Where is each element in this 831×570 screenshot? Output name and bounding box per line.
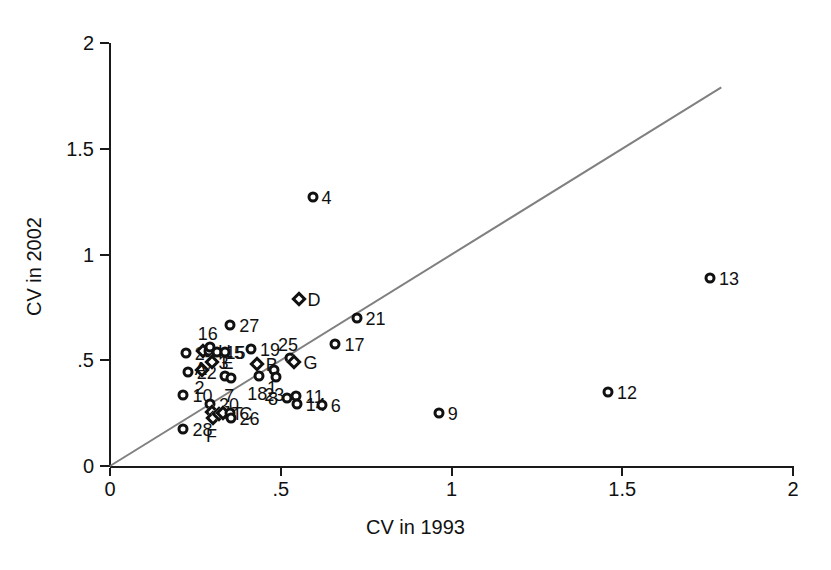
circle-marker-icon (433, 408, 444, 419)
circle-marker-icon (271, 372, 282, 383)
data-point[interactable] (182, 366, 193, 377)
data-point-label: 16 (198, 325, 218, 343)
circle-marker-icon (705, 273, 716, 284)
circle-marker-icon (602, 387, 613, 398)
circle-marker-icon (225, 413, 236, 424)
data-point[interactable] (291, 399, 302, 410)
data-point-label: 8 (268, 390, 278, 408)
data-point[interactable] (225, 413, 236, 424)
circle-marker-icon (180, 347, 191, 358)
data-point[interactable] (293, 293, 304, 304)
data-point-label: 4 (322, 189, 332, 207)
plot-area: 281024222AH1620EJF15IT5327C26719B1812381… (0, 0, 831, 570)
data-point[interactable] (289, 357, 300, 368)
data-point-label: 21 (366, 310, 386, 328)
data-point[interactable] (225, 320, 236, 331)
data-point[interactable] (180, 347, 191, 358)
data-point[interactable] (178, 390, 189, 401)
data-point-label: G (303, 354, 317, 372)
data-point[interactable] (705, 273, 716, 284)
circle-marker-icon (178, 423, 189, 434)
data-point-label: 27 (239, 317, 259, 335)
diamond-marker-icon (287, 355, 303, 371)
data-point[interactable] (602, 387, 613, 398)
data-point[interactable] (178, 423, 189, 434)
data-point-label: 7 (224, 387, 234, 405)
circle-marker-icon (291, 399, 302, 410)
data-point[interactable] (254, 371, 265, 382)
data-point[interactable] (226, 373, 237, 384)
data-point-label: 17 (344, 336, 364, 354)
data-point[interactable] (316, 400, 327, 411)
data-point-label: 12 (617, 384, 637, 402)
identity-reference-line (0, 0, 831, 570)
data-point[interactable] (251, 359, 262, 370)
circle-marker-icon (225, 320, 236, 331)
circle-marker-icon (351, 313, 362, 324)
diamond-marker-icon (291, 291, 307, 307)
data-point-label: D (308, 291, 321, 309)
data-point-label: 13 (719, 270, 739, 288)
data-point-label: 9 (448, 405, 458, 423)
data-point-label: 5 (234, 344, 244, 362)
data-point[interactable] (351, 313, 362, 324)
circle-marker-icon (226, 373, 237, 384)
scatter-plot-figure: 0.511.52 0.511.52 CV in 1993 CV in 2002 … (0, 0, 831, 570)
data-point[interactable] (307, 192, 318, 203)
data-point[interactable] (246, 343, 257, 354)
circle-marker-icon (182, 366, 193, 377)
identity-line-segment (110, 87, 721, 466)
data-point-label: 6 (331, 397, 341, 415)
data-point-label: 3 (218, 354, 228, 372)
data-point[interactable] (433, 408, 444, 419)
data-point-label: 25 (278, 336, 298, 354)
circle-marker-icon (246, 343, 257, 354)
data-point[interactable] (330, 338, 341, 349)
circle-marker-icon (330, 338, 341, 349)
data-point-label: 26 (240, 410, 260, 428)
data-point-label: F (206, 427, 217, 445)
circle-marker-icon (178, 390, 189, 401)
circle-marker-icon (254, 371, 265, 382)
circle-marker-icon (307, 192, 318, 203)
data-point-label: 2 (195, 379, 205, 397)
data-point[interactable] (271, 372, 282, 383)
data-point[interactable] (207, 357, 218, 368)
circle-marker-icon (316, 400, 327, 411)
